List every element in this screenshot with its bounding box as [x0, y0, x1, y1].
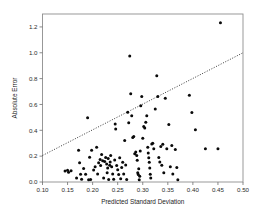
data-point	[174, 148, 177, 151]
data-point	[156, 95, 159, 98]
data-point	[154, 107, 157, 110]
data-point	[99, 164, 102, 167]
x-tick-label: 0.20	[87, 186, 100, 193]
data-point	[135, 154, 138, 157]
data-point	[147, 151, 150, 154]
data-point	[89, 178, 92, 181]
data-point	[79, 173, 82, 176]
trend-line	[43, 53, 244, 156]
data-point-group	[64, 21, 222, 181]
data-point	[110, 165, 113, 168]
x-tick-label: 0.40	[187, 186, 200, 193]
data-point	[97, 161, 100, 164]
data-point	[148, 167, 151, 170]
data-point	[121, 161, 124, 164]
data-point	[123, 139, 126, 142]
data-point	[86, 116, 89, 119]
x-tick-label: 0.30	[137, 186, 150, 193]
data-point	[115, 164, 118, 167]
data-point	[130, 114, 133, 117]
data-point	[204, 147, 207, 150]
data-point	[141, 137, 144, 140]
data-point	[138, 178, 141, 181]
data-point	[170, 144, 173, 147]
data-point	[165, 147, 168, 150]
data-point	[126, 111, 129, 114]
data-point	[134, 151, 137, 154]
data-point	[80, 178, 83, 181]
x-tick-label: 0.50	[237, 186, 250, 193]
x-tick-label: 0.15	[62, 186, 75, 193]
data-point	[175, 166, 178, 169]
data-point	[160, 164, 163, 167]
data-point	[122, 172, 125, 175]
x-tick-label: 0.35	[162, 186, 175, 193]
data-point	[64, 170, 67, 173]
y-tick-label: 1.2	[29, 23, 38, 30]
data-point	[149, 177, 152, 180]
data-point	[118, 156, 121, 159]
data-point	[147, 156, 150, 159]
data-point	[111, 172, 114, 175]
data-point	[77, 149, 80, 152]
data-point	[219, 21, 222, 24]
data-point	[155, 74, 158, 77]
y-tick-label: 0.0	[29, 178, 38, 185]
data-point	[137, 167, 140, 170]
data-point	[88, 156, 91, 159]
data-point	[148, 161, 151, 164]
data-point	[113, 159, 116, 162]
data-point	[124, 163, 127, 166]
y-axis-title: Absolute Error	[11, 77, 18, 119]
data-point	[128, 55, 131, 58]
data-point	[151, 142, 154, 145]
data-point	[67, 171, 70, 174]
plot-frame	[43, 14, 244, 182]
data-point	[140, 95, 143, 98]
data-point	[144, 121, 147, 124]
chart-canvas: 0.100.150.200.250.300.350.400.450.500.00…	[0, 0, 258, 217]
data-point	[161, 143, 164, 146]
data-point	[117, 173, 120, 176]
data-point	[169, 165, 172, 168]
x-tick-label: 0.25	[112, 186, 125, 193]
data-point	[107, 157, 110, 160]
data-point	[145, 114, 148, 117]
data-point	[162, 171, 165, 174]
data-point	[105, 162, 108, 165]
data-point	[146, 146, 149, 149]
data-point	[119, 177, 122, 180]
data-point	[139, 104, 142, 107]
data-point	[114, 123, 117, 126]
data-point	[139, 149, 142, 152]
data-point	[167, 123, 170, 126]
x-axis-title: Predicted Standard Deviation	[101, 198, 185, 205]
data-point	[92, 169, 95, 172]
data-point	[164, 97, 167, 100]
data-point	[120, 166, 123, 169]
data-point	[149, 173, 152, 176]
data-point	[84, 173, 87, 176]
data-point	[176, 178, 179, 181]
data-point	[106, 171, 109, 174]
data-point	[216, 147, 219, 150]
data-point	[158, 160, 161, 163]
data-point	[171, 172, 174, 175]
y-tick-label: 0.6	[29, 101, 38, 108]
data-point	[82, 167, 85, 170]
data-point	[78, 161, 81, 164]
data-point	[136, 159, 139, 162]
data-point	[90, 149, 93, 152]
data-point	[103, 160, 106, 163]
data-point	[129, 92, 132, 95]
data-point	[188, 94, 191, 97]
data-point	[143, 126, 146, 129]
data-point	[70, 169, 73, 172]
y-tick-label: 0.2	[29, 152, 38, 159]
data-point	[96, 172, 99, 175]
data-point	[112, 178, 115, 181]
data-point	[152, 147, 155, 150]
data-point	[132, 135, 135, 138]
scatter-plot-figure: 0.100.150.200.250.300.350.400.450.500.00…	[0, 0, 258, 217]
data-point	[100, 153, 103, 156]
